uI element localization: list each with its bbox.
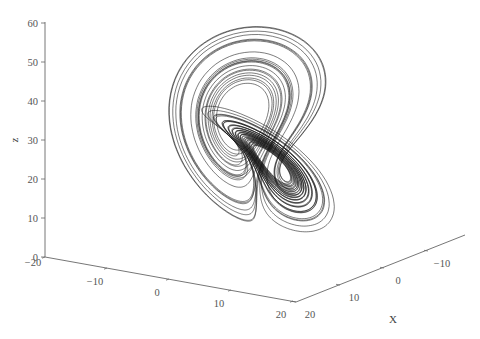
x-tick-mark [292,301,296,302]
z-axis: 0102030405060 z [8,18,45,263]
y-axis-ticks: −20−1001020 [25,257,293,320]
lorenz-attractor-plot: 0102030405060 z −20−1001020 20100−10 X [0,0,480,339]
x-axis-ticks: 20100−10 [292,250,450,320]
y-tick-label: −20 [25,257,41,268]
y-axis-line [45,257,296,302]
y-tick-mark [104,268,107,269]
z-tick-label: 50 [28,57,39,68]
z-tick-label: 60 [28,18,39,29]
x-axis: 20100−10 X [292,235,465,325]
y-tick-label: 20 [276,309,287,320]
x-axis-label: X [389,313,397,325]
z-tick-label: 40 [28,96,39,107]
trajectory-group [169,27,334,232]
z-tick-label: 20 [28,174,39,185]
z-tick-label: 30 [28,135,39,146]
z-tick-label: 10 [28,213,39,224]
x-tick-label: 20 [305,309,316,320]
z-axis-label: z [8,137,20,142]
attractor-trajectory [169,27,334,232]
x-tick-label: 10 [349,292,360,303]
y-tick-label: −10 [87,276,103,287]
x-tick-label: −10 [434,258,450,269]
y-tick-label: 10 [214,298,225,309]
z-axis-ticks: 0102030405060 [28,18,46,263]
y-tick-label: 0 [154,287,159,298]
x-tick-label: 0 [395,275,400,286]
y-axis: −20−1001020 [25,257,296,320]
